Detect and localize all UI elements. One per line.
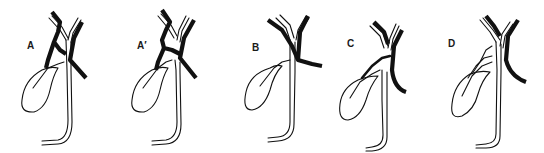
panel-c: C (330, 0, 435, 153)
panel-d: D (430, 0, 544, 153)
biliary-drawing-a-prime (110, 0, 220, 153)
panel-b: B (220, 0, 330, 153)
panel-a-prime: A′ (110, 0, 220, 153)
biliary-drawing-a (0, 0, 110, 153)
biliary-drawing-b (220, 0, 330, 153)
biliary-drawing-c (330, 0, 435, 153)
panel-a: A (0, 0, 110, 153)
biliary-drawing-d (430, 0, 544, 153)
